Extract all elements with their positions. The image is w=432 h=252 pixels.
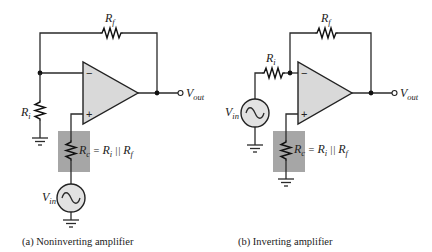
ground-icon [278, 179, 294, 186]
vin-to-ri-wire [255, 73, 262, 99]
noninverting-input-wire [71, 114, 83, 131]
ri-label: Ri [265, 51, 276, 67]
output-node [369, 91, 374, 96]
plus-sign: + [301, 108, 307, 120]
ri-label: Ri [20, 105, 31, 121]
rf-label: Rf [104, 11, 116, 27]
junction-node [288, 71, 293, 76]
feedback-wire-right [123, 33, 157, 93]
op-amp-figure: Rf Ri − + Vout Rc = Ri || Rf [0, 0, 432, 252]
output-terminal [392, 91, 397, 96]
caption-a: (a) Noninverting amplifier [22, 236, 134, 248]
vout-label: Vout [400, 86, 419, 102]
ground-icon [247, 145, 263, 152]
rf-resistor [315, 28, 338, 38]
vin-label: Vin [42, 190, 56, 206]
output-node [155, 91, 160, 96]
minus-sign: − [86, 67, 92, 79]
panel-inverting: Rf Ri Vin − + Vout [225, 11, 419, 248]
noninverting-input-wire [286, 114, 298, 131]
minus-sign: − [301, 67, 307, 79]
plus-sign: + [86, 108, 92, 120]
feedback-wire-right [338, 33, 371, 93]
rf-resistor [100, 28, 123, 38]
ri-resistor [262, 68, 285, 78]
vin-label: Vin [225, 105, 239, 121]
caption-b: (b) Inverting amplifier [238, 236, 333, 248]
ground-icon [32, 138, 48, 145]
vout-label: Vout [186, 86, 205, 102]
rf-label: Rf [320, 11, 332, 27]
panel-noninverting: Rf Ri − + Vout Rc = Ri || Rf [20, 11, 205, 248]
ri-resistor [35, 100, 45, 121]
output-terminal [178, 91, 183, 96]
ground-icon [63, 220, 79, 227]
